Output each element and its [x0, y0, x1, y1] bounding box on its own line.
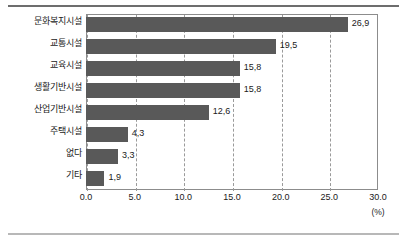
x-axis-tick-labels: 0.0 5.0 10.0 15.0 20.0 25.0 30.0	[86, 192, 378, 212]
bar-row: 1,9	[86, 168, 378, 190]
bar-row: 4,3	[86, 124, 378, 146]
bar[interactable]	[86, 61, 240, 76]
bar-value-label: 15,8	[244, 60, 262, 75]
bar-row: 12,6	[86, 102, 378, 124]
bar[interactable]	[86, 127, 128, 142]
category-slot: 주택시설	[0, 124, 82, 146]
category-axis-labels: 문화복지시설 교통시설 교육시설 생활기반시설 산업기반시설 주택시설 없다 기…	[0, 14, 82, 190]
bar-value-label: 4,3	[132, 126, 145, 141]
bar-value-label: 3,3	[122, 148, 135, 163]
category-label: 생활기반시설	[2, 80, 82, 95]
category-slot: 산업기반시설	[0, 102, 82, 124]
bar[interactable]	[86, 171, 104, 186]
bar-row: 26,9	[86, 14, 378, 36]
category-label: 기타	[2, 168, 82, 183]
top-divider-rule	[8, 5, 399, 7]
bars-layer: 26,9 19,5 15,8 15,8 12,6 4,3 3,3 1,9	[86, 14, 378, 190]
x-tick-label: 30.0	[369, 192, 387, 202]
category-slot: 문화복지시설	[0, 14, 82, 36]
bar[interactable]	[86, 17, 348, 32]
category-slot: 기타	[0, 168, 82, 190]
category-slot: 없다	[0, 146, 82, 168]
chart-figure: 문화복지시설 교통시설 교육시설 생활기반시설 산업기반시설 주택시설 없다 기…	[0, 0, 407, 245]
category-label: 문화복지시설	[2, 14, 82, 29]
category-slot: 교통시설	[0, 36, 82, 58]
bar-value-label: 26,9	[352, 16, 370, 31]
x-tick-label: 25.0	[321, 192, 339, 202]
bar-value-label: 12,6	[213, 104, 231, 119]
x-tick-label: 0.0	[80, 192, 93, 202]
category-label: 교육시설	[2, 58, 82, 73]
bar[interactable]	[86, 39, 276, 54]
x-tick-label: 5.0	[128, 192, 141, 202]
bar[interactable]	[86, 149, 118, 164]
bottom-divider-rule	[8, 233, 399, 235]
bar-row: 3,3	[86, 146, 378, 168]
bar-value-label: 19,5	[280, 38, 298, 53]
category-slot: 교육시설	[0, 58, 82, 80]
bar[interactable]	[86, 83, 240, 98]
x-tick-label: 20.0	[272, 192, 290, 202]
x-axis-unit-label: (%)	[371, 207, 384, 217]
bar-value-label: 15,8	[244, 82, 262, 97]
bar-row: 19,5	[86, 36, 378, 58]
bar-row: 15,8	[86, 58, 378, 80]
bar[interactable]	[86, 105, 209, 120]
category-slot: 생활기반시설	[0, 80, 82, 102]
x-tick-label: 10.0	[175, 192, 193, 202]
category-label: 산업기반시설	[2, 102, 82, 117]
category-label: 주택시설	[2, 124, 82, 139]
bar-value-label: 1,9	[108, 170, 121, 185]
category-label: 없다	[2, 146, 82, 161]
x-tick-label: 15.0	[223, 192, 241, 202]
category-label: 교통시설	[2, 36, 82, 51]
bar-row: 15,8	[86, 80, 378, 102]
